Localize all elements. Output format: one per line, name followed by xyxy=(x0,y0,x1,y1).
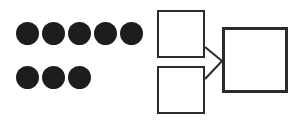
dot-top-5 xyxy=(120,22,143,45)
dot-bottom-2 xyxy=(42,66,65,89)
dot-bottom-1 xyxy=(16,66,39,89)
box-flow-diagram xyxy=(150,0,296,120)
edge-bottom-left-to-right xyxy=(205,61,222,79)
edge-top-left-to-right xyxy=(205,47,222,61)
top-left-box[interactable] xyxy=(157,10,205,58)
dot-top-3 xyxy=(68,22,91,45)
dot-top-4 xyxy=(94,22,117,45)
dot-array xyxy=(0,0,150,120)
diagram-canvas xyxy=(0,0,296,120)
dot-top-2 xyxy=(42,22,65,45)
dot-top-1 xyxy=(16,22,39,45)
right-box[interactable] xyxy=(222,27,288,93)
bottom-left-box[interactable] xyxy=(157,66,205,114)
dot-bottom-3 xyxy=(68,66,91,89)
